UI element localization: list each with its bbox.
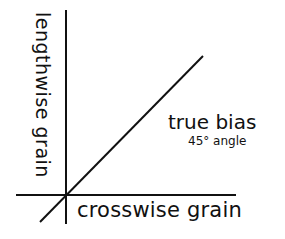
angle-label: 45° angle	[188, 135, 246, 147]
grain-diagram: lengthwise grain crosswise grain true bi…	[0, 0, 285, 239]
lengthwise-grain-label: lengthwise grain	[33, 12, 52, 178]
true-bias-label: true bias	[168, 112, 256, 132]
crosswise-grain-label: crosswise grain	[77, 200, 242, 221]
